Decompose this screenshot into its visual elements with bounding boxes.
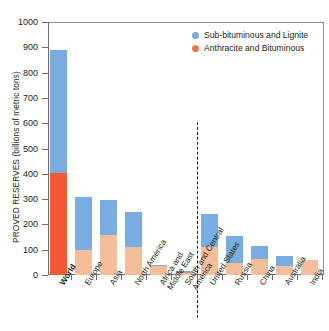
proved-reserves-chart: PROVED RESERVES (billions of metric tons…	[0, 0, 329, 331]
y-tick-label: 600	[0, 118, 38, 128]
bar-world	[50, 50, 67, 275]
legend-item: Anthracite and Bituminous	[192, 43, 308, 53]
bar-europe	[75, 197, 92, 275]
y-tick-label: 1000	[0, 17, 38, 27]
legend-item: Sub-bituminous and Lignite	[192, 30, 308, 40]
y-tick-label: 500	[0, 144, 38, 154]
y-tick-label: 0	[0, 270, 38, 280]
legend-label: Anthracite and Bituminous	[204, 43, 304, 53]
bar-north-america	[125, 212, 142, 275]
y-tick-label: 200	[0, 219, 38, 229]
y-tick-mark	[42, 275, 48, 276]
bar-segment-sub-bituminous-lignite	[100, 200, 117, 234]
bar-segment-sub-bituminous-lignite	[125, 212, 142, 247]
legend: Sub-bituminous and LigniteAnthracite and…	[192, 30, 308, 56]
legend-swatch-icon	[192, 45, 199, 52]
bar-segment-anthracite-bituminous	[50, 173, 67, 275]
bar-segment-sub-bituminous-lignite	[276, 256, 293, 266]
bar-segment-sub-bituminous-lignite	[251, 246, 268, 259]
y-tick-label: 400	[0, 169, 38, 179]
y-tick-label: 300	[0, 194, 38, 204]
legend-swatch-icon	[192, 32, 199, 39]
y-tick-label: 900	[0, 42, 38, 52]
bar-segment-sub-bituminous-lignite	[75, 197, 92, 251]
y-tick-label: 100	[0, 245, 38, 255]
plot-area	[48, 22, 324, 275]
y-tick-label: 700	[0, 93, 38, 103]
bar-segment-sub-bituminous-lignite	[50, 50, 67, 173]
y-tick-label: 800	[0, 68, 38, 78]
legend-label: Sub-bituminous and Lignite	[204, 30, 308, 40]
